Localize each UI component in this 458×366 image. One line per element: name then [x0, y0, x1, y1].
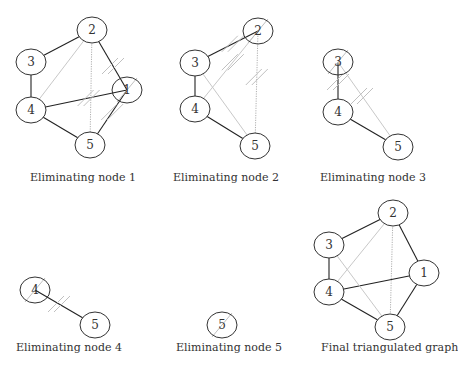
node-3: 3	[180, 50, 210, 76]
node-label: 3	[27, 55, 35, 69]
node-5: 5	[375, 314, 405, 340]
node-3: 3	[314, 232, 344, 258]
node-label: 5	[386, 320, 394, 334]
node-4: 4	[314, 279, 344, 305]
caption-p4: Eliminating node 4	[16, 341, 122, 354]
panel-p1: 23145	[16, 17, 142, 158]
node-5: 5	[75, 132, 105, 158]
node-label: 2	[88, 23, 96, 37]
caption-p6: Final triangulated graph	[321, 341, 458, 354]
node-4: 4	[180, 96, 210, 122]
node-2: 2	[243, 18, 273, 44]
node-label: 5	[91, 318, 99, 332]
node-label: 4	[191, 102, 199, 116]
node-label: 5	[251, 139, 259, 153]
node-2: 2	[77, 17, 107, 43]
node-label: 5	[86, 138, 94, 152]
node-label: 3	[191, 56, 199, 70]
caption-p3: Eliminating node 3	[320, 171, 426, 184]
node-4: 4	[20, 277, 50, 303]
caption-p5: Eliminating node 5	[176, 341, 282, 354]
node-label: 5	[218, 318, 226, 332]
node-label: 4	[325, 285, 333, 299]
node-label: 4	[27, 103, 35, 117]
node-2: 2	[378, 200, 408, 226]
node-label: 2	[389, 206, 397, 220]
edge-2-5	[390, 213, 393, 327]
node-3: 3	[16, 49, 46, 75]
node-1: 1	[409, 260, 439, 286]
node-1: 1	[112, 77, 142, 103]
node-label: 1	[123, 83, 131, 97]
node-4: 4	[16, 97, 46, 123]
node-label: 4	[334, 105, 342, 119]
caption-p1: Eliminating node 1	[30, 171, 136, 184]
node-label: 1	[420, 266, 428, 280]
node-label: 2	[254, 24, 262, 38]
node-label: 4	[31, 283, 39, 297]
edge-2-5	[90, 30, 92, 145]
node-4: 4	[323, 99, 353, 125]
panel-p5: 5	[207, 312, 237, 338]
edge-2-5	[255, 31, 258, 146]
node-5: 5	[207, 312, 237, 338]
caption-p2: Eliminating node 2	[173, 171, 279, 184]
node-label: 3	[334, 55, 342, 69]
panel-p3: 345	[323, 49, 413, 160]
node-label: 3	[325, 238, 333, 252]
node-label: 5	[394, 140, 402, 154]
node-5: 5	[383, 134, 413, 160]
panel-p6: 23145	[314, 200, 439, 340]
node-5: 5	[240, 133, 270, 159]
panel-p4: 45	[20, 277, 110, 338]
panel-p2: 2345	[180, 18, 273, 159]
node-5: 5	[80, 312, 110, 338]
